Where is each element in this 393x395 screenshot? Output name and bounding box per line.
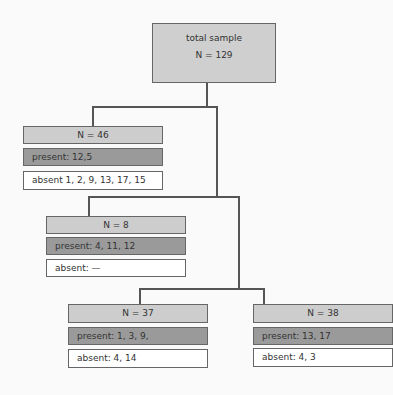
node-n37-absent: absent: 4, 14 [68,349,208,368]
node-n8-absent: absent: — [46,259,186,277]
connector [238,196,240,288]
node-n37-present: present: 1, 3, 9, [68,327,208,345]
node-n46-absent: absent 1, 2, 9, 13, 17, 15 [23,171,163,190]
node-n8-present: present: 4, 11, 12 [46,237,186,255]
connector [216,106,218,196]
connector [139,288,265,290]
node-n46-present: present: 12,5 [23,148,163,166]
root-count: N = 129 [153,47,275,64]
node-n38-present: present: 13, 17 [253,327,393,345]
connector [88,196,90,216]
connector [88,196,240,198]
connector [92,106,94,126]
root-node: total sample N = 129 [152,23,276,83]
root-title: total sample [153,30,275,47]
node-n37-header: N = 37 [68,304,208,323]
node-n8-header: N = 8 [46,216,186,234]
connector [139,288,141,304]
node-n38-absent: absent: 4, 3 [253,348,393,367]
connector [92,106,218,108]
node-n38-header: N = 38 [253,304,393,323]
connector [263,288,265,304]
connector [206,83,208,107]
node-n46-header: N = 46 [23,126,163,144]
